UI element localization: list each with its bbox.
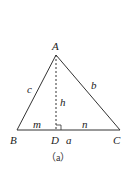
- vertex-label-c: C: [113, 134, 121, 146]
- triangle-diagram: A B C D c b a h m n （a）: [0, 0, 128, 172]
- side-label-b: b: [91, 79, 97, 91]
- figure-caption: （a）: [46, 152, 70, 163]
- segment-label-n: n: [82, 118, 88, 130]
- altitude-label-h: h: [60, 96, 66, 108]
- side-ac: [56, 55, 120, 130]
- vertex-label-d: D: [50, 134, 59, 146]
- segment-label-m: m: [33, 118, 41, 130]
- right-angle-marker: [56, 125, 61, 130]
- side-label-c: c: [27, 83, 32, 95]
- vertex-label-a: A: [51, 40, 59, 52]
- vertex-label-b: B: [10, 134, 17, 146]
- side-label-a: a: [66, 134, 72, 146]
